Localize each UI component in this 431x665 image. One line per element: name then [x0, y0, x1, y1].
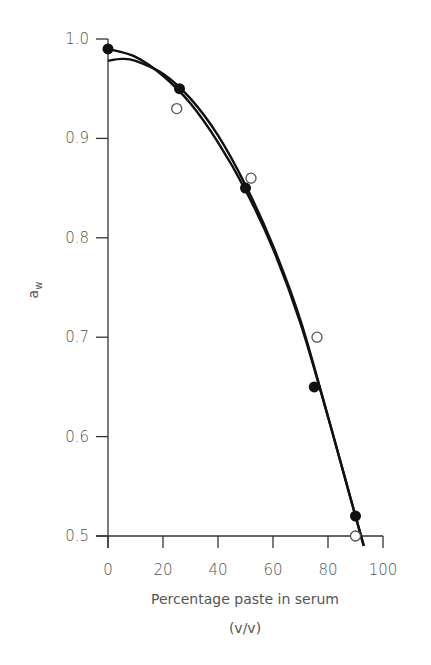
- y-tick-label: 1.0: [65, 30, 89, 48]
- filled-data-point: [103, 43, 114, 54]
- y-ticks: 0.50.60.70.80.91.0: [65, 30, 108, 545]
- data-points: [103, 43, 362, 541]
- open-data-point: [172, 104, 182, 114]
- y-axis-title-main: a: [25, 290, 41, 299]
- open-data-point: [246, 173, 256, 183]
- filled-data-point: [350, 511, 361, 522]
- y-tick-label: 0.5: [65, 527, 89, 545]
- svg-text:aw: aw: [25, 282, 44, 299]
- x-tick-label: 20: [153, 561, 172, 579]
- x-axis-subtitle: (v/v): [229, 620, 261, 636]
- x-tick-label: 40: [208, 561, 227, 579]
- x-tick-label: 100: [369, 561, 398, 579]
- open-data-point: [312, 332, 322, 342]
- y-axis-title: aw: [25, 282, 44, 299]
- x-axis-title: Percentage paste in serum: [151, 591, 339, 607]
- x-tick-label: 0: [103, 561, 113, 579]
- fit-curves: [108, 49, 364, 546]
- filled-data-point: [174, 83, 185, 94]
- y-tick-label: 0.9: [65, 129, 89, 147]
- open-data-point: [351, 531, 361, 541]
- filled-data-point: [240, 183, 251, 194]
- y-tick-label: 0.6: [65, 428, 89, 446]
- fit-curve-open: [108, 59, 364, 546]
- filled-data-point: [309, 381, 320, 392]
- x-tick-label: 80: [318, 561, 337, 579]
- x-tick-label: 60: [263, 561, 282, 579]
- chart-canvas: 0.50.60.70.80.91.0 020406080100 Percenta…: [0, 0, 431, 665]
- fit-curve-filled: [108, 49, 364, 546]
- x-ticks: 020406080100: [103, 536, 397, 579]
- axes: 0.50.60.70.80.91.0 020406080100: [65, 30, 397, 579]
- y-axis-title-subscript: w: [33, 282, 44, 290]
- y-tick-label: 0.8: [65, 229, 89, 247]
- y-tick-label: 0.7: [65, 328, 89, 346]
